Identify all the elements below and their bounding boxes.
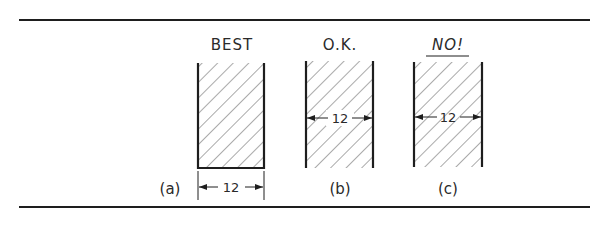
dimensioning-figure: BEST 12 (a) O.K. 12 (b) NO! 12 (c): [0, 0, 616, 228]
panel-c-heading: NO!: [432, 36, 464, 54]
panel-b-dimension-value: 12: [332, 111, 349, 126]
panel-c: NO! 12 (c): [414, 36, 482, 198]
panel-a-hatched-section: [198, 63, 264, 168]
panel-b: O.K. 12 (b): [306, 36, 373, 198]
panel-b-heading: O.K.: [323, 36, 358, 54]
panel-c-caption: (c): [438, 180, 458, 198]
panel-b-caption: (b): [329, 180, 350, 198]
panel-a-heading: BEST: [211, 36, 253, 54]
panel-c-dimension-value: 12: [440, 110, 457, 125]
panel-a-caption: (a): [160, 180, 181, 198]
panel-a: BEST 12 (a): [160, 36, 264, 200]
panel-a-dimension-value: 12: [223, 180, 240, 195]
